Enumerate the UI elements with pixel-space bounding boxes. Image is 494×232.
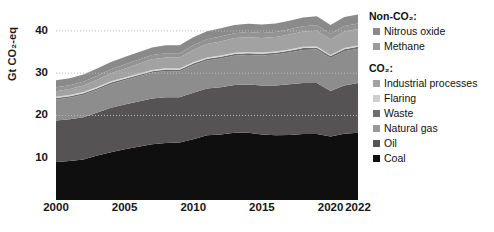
x-axis-tick-2015: 2015 [249,201,275,213]
legend-label-waste: Waste [384,108,413,119]
y-axis-tick-10: 10 [22,152,48,164]
legend-item-flaring[interactable]: Flaring [373,91,494,106]
legend-label-industrial-processes: Industrial processes [384,78,477,89]
x-axis-tick-2005: 2005 [112,201,138,213]
legend-label-natural-gas: Natural gas [384,123,438,134]
legend-item-natural-gas[interactable]: Natural gas [373,121,494,136]
legend-item-industrial-processes[interactable]: Industrial processes [373,76,494,91]
legend-swatch-waste [373,110,380,117]
y-axis-tick-labels: 10203040 [14,0,48,200]
stacked-area-svg [56,14,358,200]
legend-item-coal[interactable]: Coal [373,151,494,166]
x-axis-tick-2010: 2010 [180,201,206,213]
emissions-area-chart: Gt CO₂-eq 10203040 200020052010201520202… [0,0,494,232]
chart-legend: Non-CO₂:Nitrous oxideMethaneCO₂:Industri… [369,10,494,166]
x-axis-tick-2000: 2000 [43,201,69,213]
legend-label-coal: Coal [384,153,406,164]
y-axis-tick-20: 20 [22,109,48,121]
y-axis-tick-30: 30 [22,67,48,79]
legend-group-label-co2: CO₂: [369,62,494,74]
legend-swatch-natural-gas [373,125,380,132]
legend-label-methane: Methane [384,41,425,52]
x-axis-tick-2020: 2020 [318,201,344,213]
legend-label-oil: Oil [384,138,397,149]
legend-swatch-coal [373,155,380,162]
x-axis-tick-labels: 200020052010201520202022 [0,201,400,221]
legend-item-nitrous-oxide[interactable]: Nitrous oxide [373,24,494,39]
legend-swatch-methane [373,43,380,50]
legend-label-nitrous-oxide: Nitrous oxide [384,26,445,37]
legend-label-flaring: Flaring [384,93,416,104]
legend-group-label-non-co2: Non-CO₂: [369,10,494,22]
x-axis-tick-2022: 2022 [345,201,371,213]
legend-item-methane[interactable]: Methane [373,39,494,54]
plot-area [56,14,358,200]
legend-swatch-flaring [373,95,380,102]
legend-swatch-nitrous-oxide [373,28,380,35]
y-axis-tick-40: 40 [22,25,48,37]
legend-swatch-oil [373,140,380,147]
legend-item-oil[interactable]: Oil [373,136,494,151]
legend-item-waste[interactable]: Waste [373,106,494,121]
legend-swatch-industrial-processes [373,80,380,87]
